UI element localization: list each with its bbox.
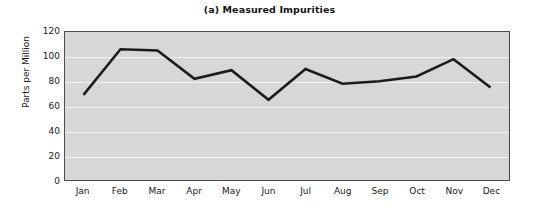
x-tick-label: Dec <box>471 186 511 197</box>
y-tick-label: 60 <box>30 102 60 111</box>
x-tick-label: Jun <box>248 186 288 197</box>
x-tick-label: May <box>211 186 251 197</box>
x-tick-label: Oct <box>397 186 437 197</box>
y-axis-tick-labels: 020406080100120 <box>30 31 60 181</box>
x-tick-label: Aug <box>323 186 363 197</box>
x-tick-label: Sep <box>360 186 400 197</box>
y-tick-label: 40 <box>30 127 60 136</box>
x-axis-tick-labels: JanFebMarAprMayJunJulAugSepOctNovDec <box>64 186 510 202</box>
x-tick-label: Jul <box>286 186 326 197</box>
y-tick-label: 0 <box>30 177 60 186</box>
chart-figure: (a) Measured Impurities Parts per Millio… <box>0 0 539 215</box>
x-tick-label: Mar <box>137 186 177 197</box>
y-tick-label: 80 <box>30 77 60 86</box>
plot-area <box>64 31 510 181</box>
x-tick-label: Nov <box>434 186 474 197</box>
series-line-measured-impurities <box>83 49 490 100</box>
y-tick-label: 20 <box>30 152 60 161</box>
x-tick-label: Apr <box>174 186 214 197</box>
x-tick-label: Jan <box>63 186 103 197</box>
chart-title: (a) Measured Impurities <box>0 4 539 15</box>
x-tick-label: Feb <box>100 186 140 197</box>
y-tick-label: 120 <box>30 27 60 36</box>
series-line-chart <box>65 32 509 180</box>
y-tick-label: 100 <box>30 52 60 61</box>
